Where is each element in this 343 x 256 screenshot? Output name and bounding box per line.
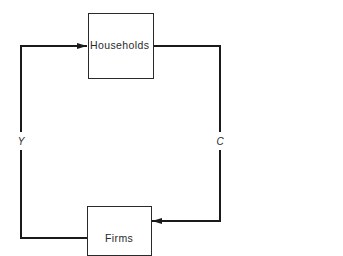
households-label: Households (90, 39, 149, 51)
edge-label-y: Y (18, 136, 25, 147)
edge-c-consumption (152, 46, 220, 221)
edge-label-c: C (216, 136, 223, 147)
edge-y-income (21, 46, 87, 238)
firms-label: Firms (105, 232, 133, 244)
firms-node (87, 206, 152, 256)
